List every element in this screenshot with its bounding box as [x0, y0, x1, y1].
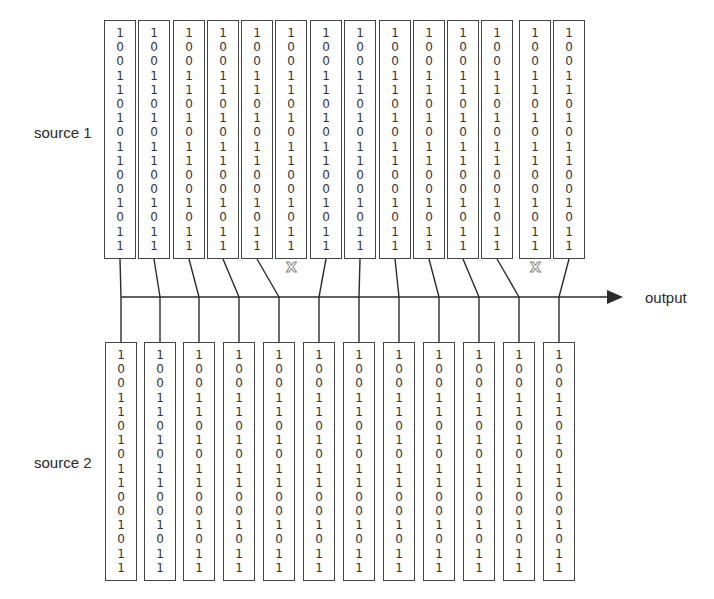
bit-value: 1 — [395, 349, 403, 361]
bit-value: 0 — [459, 41, 467, 53]
dropped-x-icon: X — [286, 259, 297, 275]
bit-value: 1 — [555, 519, 563, 531]
bit-value: 0 — [235, 420, 243, 432]
bit-value: 0 — [493, 183, 501, 195]
bit-value: 0 — [565, 211, 573, 223]
bit-value: 0 — [565, 126, 573, 138]
bit-value: 0 — [355, 377, 363, 389]
bit-value: 0 — [395, 533, 403, 545]
bit-value: 1 — [156, 562, 164, 574]
bit-value: 0 — [185, 211, 193, 223]
bit-value: 1 — [531, 240, 539, 252]
source-1-connector — [319, 259, 326, 297]
bit-value: 1 — [515, 349, 523, 361]
bit-value: 1 — [531, 226, 539, 238]
bit-value: 0 — [117, 491, 125, 503]
bit-value: 0 — [219, 98, 227, 110]
bit-value: 0 — [355, 363, 363, 375]
bit-value: 1 — [531, 27, 539, 39]
bit-value: 1 — [322, 112, 330, 124]
bit-value: 0 — [219, 169, 227, 181]
bit-value: 0 — [185, 55, 193, 67]
bit-value: 1 — [117, 477, 125, 489]
bit-value: 1 — [531, 70, 539, 82]
bit-value: 1 — [195, 406, 203, 418]
bit-value: 0 — [117, 505, 125, 517]
bit-value: 1 — [322, 27, 330, 39]
bit-value: 1 — [565, 84, 573, 96]
bit-value: 0 — [425, 55, 433, 67]
bit-value: 1 — [515, 562, 523, 574]
bit-value: 1 — [156, 349, 164, 361]
bit-value: 0 — [235, 491, 243, 503]
bit-value: 0 — [425, 169, 433, 181]
bit-value: 0 — [253, 55, 261, 67]
bit-value: 0 — [322, 169, 330, 181]
bit-value: 1 — [116, 70, 124, 82]
bit-value: 1 — [515, 406, 523, 418]
bit-value: 1 — [475, 349, 483, 361]
bit-value: 1 — [356, 70, 364, 82]
bit-value: 0 — [219, 41, 227, 53]
source-1-connector — [189, 259, 199, 297]
bit-value: 1 — [235, 562, 243, 574]
bit-value: 0 — [356, 211, 364, 223]
source-1-connector — [497, 259, 519, 297]
bit-value: 1 — [287, 197, 295, 209]
bit-value: 1 — [287, 84, 295, 96]
bit-value: 1 — [459, 226, 467, 238]
bit-value: 0 — [555, 533, 563, 545]
bit-value: 1 — [355, 463, 363, 475]
bit-value: 1 — [459, 240, 467, 252]
bit-value: 1 — [117, 392, 125, 404]
bit-value: 1 — [185, 155, 193, 167]
bit-value: 0 — [219, 55, 227, 67]
bit-value: 0 — [425, 41, 433, 53]
bit-value: 1 — [395, 477, 403, 489]
bit-value: 0 — [219, 211, 227, 223]
bit-value: 1 — [391, 197, 399, 209]
bit-value: 0 — [475, 533, 483, 545]
source-2-column: 1001101011001011 — [183, 342, 215, 581]
bit-value: 1 — [531, 141, 539, 153]
bit-value: 1 — [315, 434, 323, 446]
source-2-column: 1001101011001011 — [303, 342, 335, 581]
bit-value: 0 — [116, 126, 124, 138]
bit-value: 1 — [565, 226, 573, 238]
bit-value: 1 — [356, 155, 364, 167]
bit-value: 1 — [356, 226, 364, 238]
bit-value: 0 — [195, 491, 203, 503]
bit-value: 0 — [395, 505, 403, 517]
bit-value: 0 — [322, 98, 330, 110]
bit-value: 0 — [185, 98, 193, 110]
bit-value: 1 — [435, 406, 443, 418]
bit-value: 1 — [565, 240, 573, 252]
bit-value: 0 — [395, 491, 403, 503]
bit-value: 1 — [493, 240, 501, 252]
bit-value: 0 — [185, 126, 193, 138]
bit-value: 0 — [253, 169, 261, 181]
bit-value: 1 — [275, 562, 283, 574]
source-2-column: 1001101011001011 — [343, 342, 375, 581]
bit-value: 0 — [425, 183, 433, 195]
bit-value: 1 — [195, 392, 203, 404]
bit-value: 0 — [356, 169, 364, 181]
bit-value: 1 — [195, 548, 203, 560]
bit-value: 0 — [391, 211, 399, 223]
bit-value: 1 — [355, 392, 363, 404]
bit-value: 1 — [459, 27, 467, 39]
bit-value: 0 — [315, 505, 323, 517]
bit-value: 1 — [425, 112, 433, 124]
bit-value: 1 — [287, 240, 295, 252]
bit-value: 1 — [195, 434, 203, 446]
bit-value: 0 — [185, 169, 193, 181]
bit-value: 1 — [116, 240, 124, 252]
bit-value: 1 — [185, 240, 193, 252]
interleaving-diagram: source 1 source 2 output 100110101100101… — [0, 0, 714, 599]
bit-value: 1 — [219, 155, 227, 167]
bit-value: 0 — [117, 533, 125, 545]
bit-value: 0 — [117, 363, 125, 375]
bit-value: 1 — [219, 240, 227, 252]
bit-value: 1 — [515, 463, 523, 475]
bit-value: 0 — [117, 377, 125, 389]
